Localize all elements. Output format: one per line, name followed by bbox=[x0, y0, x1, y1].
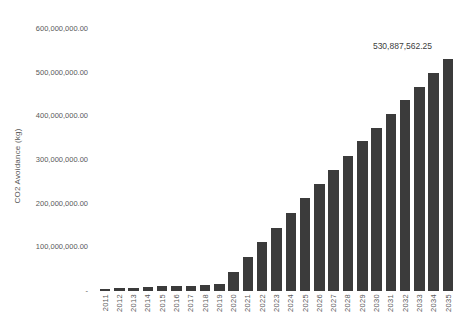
bar-2032 bbox=[400, 100, 411, 291]
y-axis-tick-label: 100,000,000.00 bbox=[18, 242, 88, 252]
y-axis-title: CO2 Avoidance (kg) bbox=[13, 128, 22, 203]
x-axis-tick-label-2011: 2011 bbox=[101, 294, 110, 311]
bar-2017 bbox=[186, 286, 197, 291]
y-axis-tick-label: 400,000,000.00 bbox=[18, 111, 88, 121]
x-axis-tick-label-2014: 2014 bbox=[143, 294, 152, 312]
bar-2030 bbox=[371, 128, 382, 291]
bar-2028 bbox=[343, 156, 354, 291]
x-axis-tick-label-2021: 2021 bbox=[243, 294, 252, 312]
x-axis-tick-label-2027: 2027 bbox=[329, 294, 338, 312]
bar-2014 bbox=[143, 287, 154, 291]
x-axis-tick-label-2024: 2024 bbox=[286, 294, 295, 312]
x-axis-tick-label-2031: 2031 bbox=[386, 294, 395, 312]
x-axis-tick-label-2013: 2013 bbox=[129, 294, 138, 312]
x-axis-tick-label-2017: 2017 bbox=[186, 294, 195, 312]
bar-2016 bbox=[171, 286, 182, 291]
bar-2011 bbox=[100, 289, 111, 291]
y-axis-tick-label: - bbox=[18, 286, 88, 296]
x-axis-tick-label-2026: 2026 bbox=[315, 294, 324, 312]
y-axis-tick-label: 300,000,000.00 bbox=[18, 155, 88, 165]
bar-2027 bbox=[328, 170, 339, 291]
bar-2018 bbox=[200, 285, 211, 291]
bar-chart: CO2 Avoidance (kg) 530,887,562.25 600,00… bbox=[0, 0, 464, 331]
x-axis-tick-label-2032: 2032 bbox=[401, 294, 410, 312]
x-axis-tick-label-2030: 2030 bbox=[372, 294, 381, 312]
x-axis-tick-label-2016: 2016 bbox=[172, 294, 181, 312]
x-axis-tick-label-2034: 2034 bbox=[429, 294, 438, 312]
x-axis-tick-label-2028: 2028 bbox=[343, 294, 352, 312]
bar-2034 bbox=[428, 73, 439, 291]
bar-2022 bbox=[257, 242, 268, 291]
x-axis-tick-label-2018: 2018 bbox=[201, 294, 210, 312]
bar-2033 bbox=[414, 87, 425, 291]
bar-2031 bbox=[386, 114, 397, 291]
bar-2020 bbox=[228, 272, 239, 291]
x-axis-tick-label-2025: 2025 bbox=[301, 294, 310, 312]
x-axis-tick-label-2012: 2012 bbox=[115, 294, 124, 312]
bar-2029 bbox=[357, 141, 368, 291]
bar-2021 bbox=[243, 257, 254, 291]
bar-2019 bbox=[214, 284, 225, 291]
max-value-data-label: 530,887,562.25 bbox=[373, 41, 432, 51]
bar-2013 bbox=[128, 288, 139, 291]
bar-2025 bbox=[300, 198, 311, 291]
x-axis-tick-label-2033: 2033 bbox=[415, 294, 424, 312]
bar-2023 bbox=[271, 228, 282, 291]
y-axis-tick-label: 200,000,000.00 bbox=[18, 199, 88, 209]
bar-2035 bbox=[443, 59, 454, 291]
y-axis-tick-label: 600,000,000.00 bbox=[18, 24, 88, 34]
x-axis-tick-label-2035: 2035 bbox=[444, 294, 453, 312]
bar-2026 bbox=[314, 184, 325, 291]
x-axis-tick-label-2019: 2019 bbox=[215, 294, 224, 312]
x-axis-tick-label-2022: 2022 bbox=[258, 294, 267, 312]
x-axis-tick-label-2015: 2015 bbox=[158, 294, 167, 312]
x-axis-tick-label-2023: 2023 bbox=[272, 294, 281, 312]
y-axis-tick-label: 500,000,000.00 bbox=[18, 68, 88, 78]
bar-2024 bbox=[286, 213, 297, 291]
x-axis-tick-label-2029: 2029 bbox=[358, 294, 367, 312]
x-axis-tick-label-2020: 2020 bbox=[229, 294, 238, 312]
bar-2012 bbox=[114, 288, 125, 291]
bar-2015 bbox=[157, 286, 168, 291]
